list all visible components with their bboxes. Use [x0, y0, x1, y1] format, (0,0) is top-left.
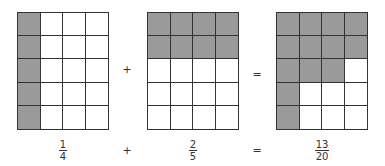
- shaded-cell: [18, 13, 41, 36]
- empty-cell: [86, 83, 109, 106]
- numerator: 1: [59, 140, 67, 151]
- shaded-cell: [18, 106, 41, 129]
- empty-cell: [193, 83, 216, 106]
- numerator: 2: [189, 140, 197, 151]
- empty-cell: [171, 106, 194, 129]
- empty-cell: [216, 106, 239, 129]
- shaded-cell: [193, 36, 216, 59]
- grid-two-fifths: [147, 12, 239, 130]
- shaded-cell: [18, 59, 41, 82]
- denominator: 4: [60, 151, 66, 162]
- shaded-cell: [277, 106, 300, 129]
- fraction-thirteen-twentieths: 13 20: [307, 140, 337, 162]
- empty-cell: [300, 106, 323, 129]
- empty-cell: [86, 13, 109, 36]
- equals-sign-top: =: [251, 69, 263, 81]
- empty-cell: [63, 36, 86, 59]
- empty-cell: [193, 106, 216, 129]
- empty-cell: [41, 59, 64, 82]
- shaded-cell: [300, 59, 323, 82]
- empty-cell: [63, 59, 86, 82]
- fraction-one-quarter: 1 4: [48, 140, 78, 162]
- shaded-cell: [322, 36, 345, 59]
- grid-one-quarter: [17, 12, 109, 130]
- empty-cell: [86, 106, 109, 129]
- empty-cell: [86, 36, 109, 59]
- shaded-cell: [148, 13, 171, 36]
- plus-sign-top: +: [121, 64, 133, 76]
- empty-cell: [322, 83, 345, 106]
- empty-cell: [216, 83, 239, 106]
- empty-cell: [193, 59, 216, 82]
- empty-cell: [345, 106, 368, 129]
- empty-cell: [63, 13, 86, 36]
- denominator: 20: [316, 151, 329, 162]
- empty-cell: [41, 13, 64, 36]
- equals-sign-bottom: =: [251, 145, 263, 157]
- shaded-cell: [322, 59, 345, 82]
- empty-cell: [345, 83, 368, 106]
- shaded-cell: [277, 36, 300, 59]
- empty-cell: [148, 59, 171, 82]
- empty-cell: [63, 106, 86, 129]
- fraction-two-fifths: 2 5: [178, 140, 208, 162]
- numerator: 13: [315, 140, 330, 151]
- shaded-cell: [277, 83, 300, 106]
- shaded-cell: [300, 13, 323, 36]
- shaded-cell: [345, 36, 368, 59]
- denominator: 5: [190, 151, 196, 162]
- shaded-cell: [345, 13, 368, 36]
- shaded-cell: [171, 36, 194, 59]
- empty-cell: [148, 106, 171, 129]
- shaded-cell: [193, 13, 216, 36]
- shaded-cell: [277, 13, 300, 36]
- shaded-cell: [216, 13, 239, 36]
- plus-sign-bottom: +: [121, 145, 133, 157]
- shaded-cell: [171, 13, 194, 36]
- empty-cell: [41, 36, 64, 59]
- shaded-cell: [277, 59, 300, 82]
- shaded-cell: [18, 36, 41, 59]
- shaded-cell: [148, 36, 171, 59]
- empty-cell: [300, 83, 323, 106]
- empty-cell: [41, 83, 64, 106]
- empty-cell: [148, 83, 171, 106]
- empty-cell: [216, 59, 239, 82]
- empty-cell: [63, 83, 86, 106]
- empty-cell: [345, 59, 368, 82]
- empty-cell: [86, 59, 109, 82]
- grid-thirteen-twentieths: [276, 12, 368, 130]
- empty-cell: [171, 83, 194, 106]
- empty-cell: [171, 59, 194, 82]
- empty-cell: [322, 106, 345, 129]
- shaded-cell: [300, 36, 323, 59]
- empty-cell: [41, 106, 64, 129]
- shaded-cell: [322, 13, 345, 36]
- shaded-cell: [18, 83, 41, 106]
- shaded-cell: [216, 36, 239, 59]
